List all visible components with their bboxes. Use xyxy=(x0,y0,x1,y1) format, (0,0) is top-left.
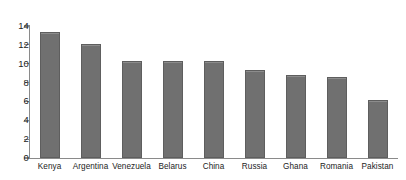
x-axis-category-label: China xyxy=(193,163,234,171)
x-axis-category-label: Ghana xyxy=(275,163,316,171)
x-axis-category-label: Pakistan xyxy=(357,163,398,171)
bar[interactable] xyxy=(163,61,183,158)
x-axis-category-label: Russia xyxy=(234,163,275,171)
plot-area: 02468101214 KenyaArgentinaVenezuelaBelar… xyxy=(0,0,406,180)
bar[interactable] xyxy=(204,61,224,158)
bar[interactable] xyxy=(81,44,101,158)
bar[interactable] xyxy=(368,100,388,158)
bar[interactable] xyxy=(327,77,347,158)
x-axis-category-label: Venezuela xyxy=(111,163,152,171)
x-axis-category-label: Argentina xyxy=(70,163,111,171)
bar-chart: 02468101214 KenyaArgentinaVenezuelaBelar… xyxy=(0,0,406,180)
bar[interactable] xyxy=(40,32,60,158)
bar[interactable] xyxy=(245,70,265,158)
bar[interactable] xyxy=(286,75,306,158)
bars-layer: KenyaArgentinaVenezuelaBelarusChinaRussi… xyxy=(0,0,406,180)
x-axis-category-label: Romania xyxy=(316,163,357,171)
bar[interactable] xyxy=(122,61,142,158)
x-axis-category-label: Belarus xyxy=(152,163,193,171)
x-axis-category-label: Kenya xyxy=(29,163,70,171)
